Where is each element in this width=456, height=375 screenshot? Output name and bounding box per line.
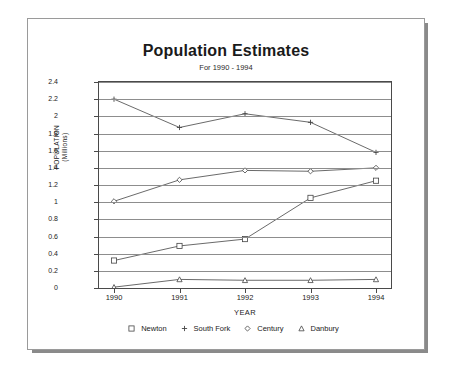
y-axis-tick-label: 1.4 xyxy=(18,164,58,171)
y-axis-tick-label: 2.4 xyxy=(18,78,58,85)
gridline xyxy=(99,151,391,152)
data-point-diamond xyxy=(245,326,250,331)
y-axis-tick-label: 0 xyxy=(18,284,58,291)
gridline xyxy=(99,237,391,238)
x-axis-tick-mark xyxy=(311,289,312,293)
legend-label: Century xyxy=(257,324,283,333)
series-line-newton xyxy=(114,181,376,261)
legend-marker-square-icon xyxy=(127,324,136,333)
gridline xyxy=(99,99,391,100)
y-axis-tick-label: 0.8 xyxy=(18,215,58,222)
plot-area xyxy=(98,81,392,289)
legend-label: Danbury xyxy=(311,324,339,333)
x-axis-title: YEAR xyxy=(98,308,392,317)
legend-item-south-fork[interactable]: South Fork xyxy=(180,324,231,333)
x-axis-tick-label: 1992 xyxy=(215,293,275,302)
y-axis-tick-label: 2.2 xyxy=(18,95,58,102)
data-point-diamond xyxy=(308,169,313,174)
data-point-diamond xyxy=(177,177,182,182)
gridline xyxy=(99,116,391,117)
y-axis-tick-label: 0.4 xyxy=(18,250,58,257)
y-axis-tick-label: 0.6 xyxy=(18,233,58,240)
legend-label: South Fork xyxy=(194,324,231,333)
data-point-plus xyxy=(181,326,186,331)
y-axis-title-line2: (Millions) xyxy=(61,133,68,162)
x-axis-tick-label: 1994 xyxy=(346,293,406,302)
data-point-triangle xyxy=(111,285,116,288)
slide-canvas: Population Estimates For 1990 - 1994 POP… xyxy=(0,0,456,375)
data-point-plus xyxy=(177,125,182,130)
gridline xyxy=(99,254,391,255)
legend-marker-diamond-icon xyxy=(243,324,252,333)
y-axis-tick-label: 0.2 xyxy=(18,267,58,274)
gridline xyxy=(99,219,391,220)
y-axis-tick-label: 1.2 xyxy=(18,181,58,188)
legend-item-century[interactable]: Century xyxy=(243,324,283,333)
chart-title: Population Estimates xyxy=(28,42,424,60)
gridline xyxy=(99,185,391,186)
x-axis-tick-mark xyxy=(114,289,115,293)
y-axis-tick-label: 2 xyxy=(18,112,58,119)
legend-item-danbury[interactable]: Danbury xyxy=(297,324,339,333)
gridline xyxy=(99,168,391,169)
data-point-square xyxy=(111,258,116,263)
x-axis-tick-label: 1991 xyxy=(150,293,210,302)
chart-legend: NewtonSouth ForkCenturyDanbury xyxy=(68,324,398,333)
data-point-plus xyxy=(308,120,313,125)
gridline xyxy=(99,134,391,135)
slide-frame: Population Estimates For 1990 - 1994 POP… xyxy=(27,18,425,350)
gridline xyxy=(99,202,391,203)
gridline xyxy=(99,82,391,83)
data-point-triangle xyxy=(298,326,303,331)
data-point-square xyxy=(373,178,378,183)
y-axis-tick-label: 1 xyxy=(18,198,58,205)
x-axis-tick-mark xyxy=(245,289,246,293)
legend-label: Newton xyxy=(141,324,166,333)
chart-subtitle: For 1990 - 1994 xyxy=(28,63,424,72)
gridline xyxy=(99,271,391,272)
x-axis-tick-mark xyxy=(376,289,377,293)
data-point-square xyxy=(129,326,134,331)
data-point-square xyxy=(308,195,313,200)
legend-marker-triangle-icon xyxy=(297,324,306,333)
y-axis-tick-label: 1.6 xyxy=(18,147,58,154)
x-axis-tick-label: 1993 xyxy=(281,293,341,302)
legend-marker-plus-icon xyxy=(180,324,189,333)
data-point-square xyxy=(177,243,182,248)
x-axis-tick-label: 1990 xyxy=(84,293,144,302)
y-axis-tick-label: 1.8 xyxy=(18,130,58,137)
series-line-south-fork xyxy=(114,99,376,152)
chart-container: Population Estimates For 1990 - 1994 POP… xyxy=(28,19,424,349)
legend-item-newton[interactable]: Newton xyxy=(127,324,166,333)
x-axis-tick-mark xyxy=(180,289,181,293)
